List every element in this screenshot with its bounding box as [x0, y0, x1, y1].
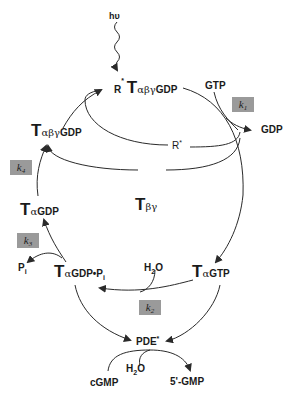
node-t-alpha-gtp: TαGTP	[192, 263, 230, 280]
activation-arc	[183, 88, 243, 262]
gdppi-to-pde	[75, 285, 130, 340]
node-t-alpha-gdp: TαGDP	[20, 201, 59, 218]
t-label: T	[127, 78, 137, 97]
gdp-out-label: GDP	[261, 125, 283, 135]
gdp-label: GDP	[156, 84, 178, 95]
node-pde-active: PDE*	[136, 337, 159, 347]
h2o-label-top: H2O	[144, 263, 163, 273]
gtp-to-pde	[167, 285, 220, 341]
node-t-beta-gamma: Tβγ	[135, 196, 157, 213]
gtp-label: GTP	[205, 81, 226, 91]
node-transducin-gdp: TαβγGDP	[31, 122, 82, 139]
rate-k2: k2	[139, 300, 161, 315]
pi-label: Pi	[18, 263, 27, 273]
k3-arrow	[44, 220, 66, 262]
node-rstar-transducin-gdp: R* TαβγGDP	[114, 79, 177, 96]
r-label: R	[114, 84, 121, 95]
cgmp-label: cGMP	[90, 378, 118, 388]
rate-k4: k4	[10, 160, 32, 175]
h2o-label-bottom: H2O	[126, 364, 145, 374]
star: *	[121, 77, 124, 84]
tbg-loop	[48, 138, 240, 170]
light-wave	[115, 22, 120, 70]
k4-arrow	[37, 146, 46, 196]
cgmp-arc	[108, 350, 190, 371]
node-t-alpha-gdp-pi: TαGDP•Pi	[54, 263, 105, 280]
rate-k3: k3	[17, 233, 39, 248]
gdp-out	[226, 118, 250, 130]
gmp-label: 5'-GMP	[170, 377, 204, 387]
rate-k1: k1	[232, 97, 254, 112]
light-label: hυ	[109, 12, 120, 21]
pi-release	[28, 253, 62, 262]
greek-sub: αβγ	[137, 84, 156, 95]
rstar-loop	[85, 90, 240, 147]
rstar-label: R*	[172, 141, 182, 151]
